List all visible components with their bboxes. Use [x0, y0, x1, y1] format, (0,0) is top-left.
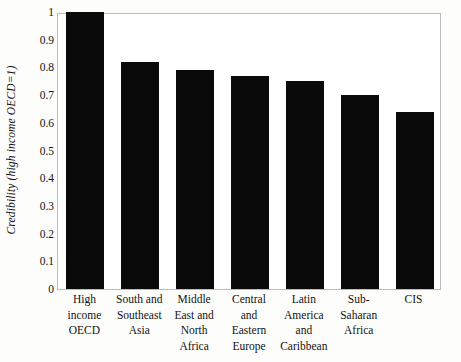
x-axis-category-label-line: Southeast: [112, 308, 167, 324]
x-axis-category-label-line: OECD: [57, 323, 112, 339]
x-axis-category-label: CentralandEasternEurope: [222, 292, 277, 354]
x-axis-category-label: CIS: [386, 292, 441, 308]
x-axis-category-label-line: Sub-: [331, 292, 386, 308]
y-axis-tick-label: 0: [22, 284, 54, 296]
x-axis-category-label-line: Caribbean: [276, 339, 331, 355]
x-axis-category-label-line: and: [222, 308, 277, 324]
y-axis-tick-label: 0.8: [22, 63, 54, 75]
x-axis-category-label-line: Africa: [331, 323, 386, 339]
x-axis-category-label-line: Saharan: [331, 308, 386, 324]
x-axis-category-label-line: Africa: [167, 339, 222, 355]
x-axis-category-label: LatinAmericaandCaribbean: [276, 292, 331, 354]
y-axis-tick-label: 0.1: [22, 257, 54, 269]
bar: [66, 12, 104, 289]
plot-area: [57, 13, 441, 290]
y-axis-tick-label: 0.5: [22, 146, 54, 158]
y-axis-title: Credibility (high income OECD=1): [0, 0, 22, 300]
x-axis-category-label: South andSoutheastAsia: [112, 292, 167, 339]
y-axis-tick-label: 0.2: [22, 229, 54, 241]
bar-series: [58, 14, 440, 289]
bar: [121, 62, 159, 289]
y-axis-tick-label: 0.7: [22, 90, 54, 102]
x-axis-category-label-line: America: [276, 308, 331, 324]
x-axis-category-label-line: and: [276, 323, 331, 339]
x-axis-category-label: MiddleEast andNorthAfrica: [167, 292, 222, 354]
bar: [396, 112, 434, 289]
bar: [341, 95, 379, 289]
chart-figure: Credibility (high income OECD=1) 10.90.8…: [0, 0, 461, 362]
y-axis-title-text: Credibility (high income OECD=1): [5, 66, 17, 235]
x-axis-category-label-line: Central: [222, 292, 277, 308]
y-axis-tick-label: 0.3: [22, 201, 54, 213]
x-axis-category-label-line: Eastern: [222, 323, 277, 339]
x-axis-category-label: HighincomeOECD: [57, 292, 112, 339]
x-axis-category-label-line: North: [167, 323, 222, 339]
y-axis-tick-label: 0.6: [22, 118, 54, 130]
bar: [231, 76, 269, 289]
x-axis-category-label-line: Latin: [276, 292, 331, 308]
y-axis-tick-label: 0.9: [22, 35, 54, 47]
x-axis-category-label-line: Asia: [112, 323, 167, 339]
y-axis-tick-label: 0.4: [22, 173, 54, 185]
x-axis-category-label-line: CIS: [386, 292, 441, 308]
x-axis-category-label-line: South and: [112, 292, 167, 308]
x-axis-category-label-line: income: [57, 308, 112, 324]
bar: [286, 81, 324, 289]
x-axis-category-label-line: East and: [167, 308, 222, 324]
x-axis-category-label-line: Middle: [167, 292, 222, 308]
x-axis-category-label-line: High: [57, 292, 112, 308]
x-axis-category-labels: HighincomeOECDSouth andSoutheastAsiaMidd…: [57, 292, 441, 362]
bar: [176, 70, 214, 289]
x-axis-category-label-line: Europe: [222, 339, 277, 355]
y-axis-tick-label: 1: [22, 7, 54, 19]
y-axis-tick-labels: 10.90.80.70.60.50.40.30.20.10: [22, 13, 54, 290]
x-axis-category-label: Sub-SaharanAfrica: [331, 292, 386, 339]
